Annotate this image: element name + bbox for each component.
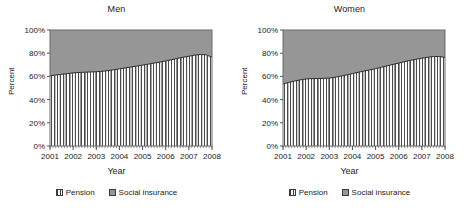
y-axis-label-women: Percent (240, 67, 249, 95)
legend-label-social-insurance-men: Social insurance (119, 188, 178, 197)
svg-text:2003: 2003 (87, 152, 105, 161)
legend-label-pension-men: Pension (66, 188, 95, 197)
plot-area-men: 0%20%40%60%80%100% 200120022003200420052… (0, 0, 233, 208)
svg-text:2007: 2007 (413, 152, 431, 161)
svg-text:100%: 100% (258, 26, 278, 35)
legend-label-pension-women: Pension (299, 188, 328, 197)
svg-text:2007: 2007 (180, 152, 198, 161)
series-group-men (50, 30, 212, 146)
svg-text:0%: 0% (33, 142, 45, 151)
svg-text:2002: 2002 (64, 152, 82, 161)
y-tick-labels-women: 0%20%40%60%80%100% (258, 26, 278, 151)
svg-text:2001: 2001 (41, 152, 59, 161)
svg-text:20%: 20% (262, 119, 278, 128)
svg-text:20%: 20% (29, 119, 45, 128)
svg-text:2003: 2003 (320, 152, 338, 161)
svg-text:2008: 2008 (203, 152, 221, 161)
chart-panel-men: Men 0%20%40%60 (0, 0, 233, 208)
svg-text:2004: 2004 (344, 152, 362, 161)
plot-area-women: 0%20%40%60%80%100% 200120022003200420052… (233, 0, 466, 208)
chart-svg-men: 0%20%40%60%80%100% 200120022003200420052… (0, 0, 233, 208)
legend-women: Pension Social insurance (233, 188, 466, 197)
svg-text:80%: 80% (262, 49, 278, 58)
chart-svg-women: 0%20%40%60%80%100% 200120022003200420052… (233, 0, 466, 208)
svg-text:100%: 100% (25, 26, 45, 35)
svg-text:0%: 0% (266, 142, 278, 151)
y-axis-label-men: Percent (7, 67, 16, 95)
x-axis-label-men: Year (0, 166, 233, 176)
legend-label-social-insurance-women: Social insurance (352, 188, 411, 197)
pension-swatch-icon (56, 189, 63, 196)
svg-text:60%: 60% (262, 72, 278, 81)
svg-text:40%: 40% (262, 96, 278, 105)
svg-text:2005: 2005 (134, 152, 152, 161)
chart-panel-women: Women 0%20%40% (233, 0, 466, 208)
y-tick-labels-men: 0%20%40%60%80%100% (25, 26, 45, 151)
svg-text:80%: 80% (29, 49, 45, 58)
svg-text:2002: 2002 (297, 152, 315, 161)
svg-text:2006: 2006 (390, 152, 408, 161)
social-insurance-swatch-icon (342, 189, 349, 196)
x-tick-labels-women: 20012002200320042005200620072008 (274, 152, 454, 161)
legend-item-pension-men[interactable]: Pension (56, 188, 95, 197)
figure-root: Men 0%20%40%60 (0, 0, 466, 208)
social-insurance-swatch-icon (109, 189, 116, 196)
x-tick-labels-men: 20012002200320042005200620072008 (41, 152, 221, 161)
svg-text:2006: 2006 (157, 152, 175, 161)
legend-item-social-insurance-women[interactable]: Social insurance (342, 188, 411, 197)
svg-text:2001: 2001 (274, 152, 292, 161)
svg-text:2004: 2004 (111, 152, 129, 161)
svg-text:60%: 60% (29, 72, 45, 81)
svg-text:2005: 2005 (367, 152, 385, 161)
svg-text:40%: 40% (29, 96, 45, 105)
legend-men: Pension Social insurance (0, 188, 233, 197)
series-group-women (283, 30, 445, 146)
svg-text:2008: 2008 (436, 152, 454, 161)
legend-item-pension-women[interactable]: Pension (289, 188, 328, 197)
pension-swatch-icon (289, 189, 296, 196)
x-axis-label-women: Year (233, 166, 466, 176)
legend-item-social-insurance-men[interactable]: Social insurance (109, 188, 178, 197)
